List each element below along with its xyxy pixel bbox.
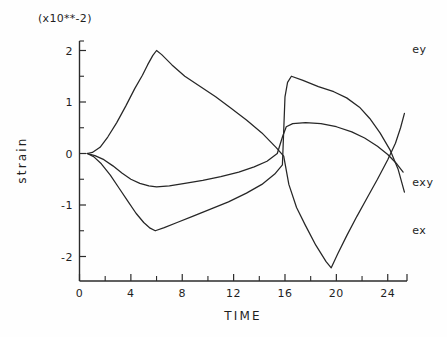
y-tick-label-2: 2 [66,45,74,58]
axes-lines [80,41,408,281]
chart-figure: 04812162024 -2-1012 eyexyex (x10**-2) TI… [0,0,447,337]
y-tick-label-neg1: -1 [61,199,73,212]
x-tick-label-16: 16 [277,287,292,300]
y-axis-ticks [80,41,87,257]
series-label-ex: ex [412,224,426,237]
x-axis-title: TIME [223,309,262,323]
y-axis-tick-labels: -2-1012 [61,45,73,264]
curve-ey [87,51,404,268]
strain-vs-time-plot: 04812162024 -2-1012 eyexyex (x10**-2) TI… [0,0,447,337]
x-tick-label-8: 8 [178,287,186,300]
x-tick-label-12: 12 [226,287,241,300]
x-tick-label-24: 24 [380,287,395,300]
curve-ex [87,76,404,231]
series-labels: eyexyex [412,43,433,236]
y-tick-label-0: 0 [66,148,74,161]
unit-annotation: (x10**-2) [38,12,92,25]
y-axis-title: strain [15,136,29,183]
y-tick-label-1: 1 [66,96,74,109]
data-curves [87,51,404,268]
curve-exy [87,123,403,187]
x-tick-label-4: 4 [127,287,135,300]
series-label-exy: exy [412,176,433,189]
x-axis-ticks [80,274,408,281]
series-label-ey: ey [412,43,426,56]
x-axis-tick-labels: 04812162024 [76,287,395,300]
x-tick-label-0: 0 [76,287,84,300]
y-tick-label-neg2: -2 [61,251,73,264]
x-tick-label-20: 20 [329,287,344,300]
